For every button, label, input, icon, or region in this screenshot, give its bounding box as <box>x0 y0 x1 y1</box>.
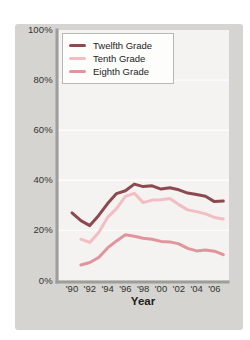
legend-swatch-icon <box>69 70 86 74</box>
x-axis-title: Year <box>108 295 178 307</box>
y-tick-label-40: 40% <box>0 174 53 185</box>
legend-swatch-icon <box>69 57 86 61</box>
chart-figure: 100%80%60%40%20%0% '90'92'94'96'98'00'02… <box>0 0 250 340</box>
legend-item: Eighth Grade <box>69 65 167 78</box>
y-tick-label-20: 20% <box>0 224 53 235</box>
y-tick-label-0: 0% <box>0 275 53 286</box>
legend-label: Eighth Grade <box>93 66 149 78</box>
x-tick-label-2006: '06 <box>200 283 228 294</box>
legend-item: Tenth Grade <box>69 52 167 65</box>
y-tick-label-80: 80% <box>0 74 53 85</box>
legend: Twelfth GradeTenth GradeEighth Grade <box>62 33 174 84</box>
y-tick-label-60: 60% <box>0 124 53 135</box>
legend-label: Tenth Grade <box>93 53 145 65</box>
legend-item: Twelfth Grade <box>69 39 167 52</box>
y-tick-label-100: 100% <box>0 24 53 35</box>
legend-swatch-icon <box>69 44 86 48</box>
legend-label: Twelfth Grade <box>93 40 152 52</box>
